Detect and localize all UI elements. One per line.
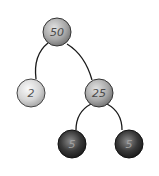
tree-node-5-left: 5 [58,130,86,158]
edge-25-5-left [76,104,91,130]
tree-node-25: 25 [85,79,113,107]
tree-node-5-right: 5 [115,130,143,158]
edge-25-5-right [107,104,122,130]
tree-diagram: 50 2 25 5 5 [0,0,159,176]
node-label: 5 [69,138,76,151]
tree-node-50: 50 [43,18,71,46]
node-label: 5 [126,138,133,151]
edge-50-2 [36,43,49,79]
tree-node-2: 2 [17,79,45,107]
node-label: 2 [28,87,35,100]
edge-50-25 [67,44,92,80]
node-label: 25 [92,87,106,100]
node-label: 50 [50,26,64,39]
